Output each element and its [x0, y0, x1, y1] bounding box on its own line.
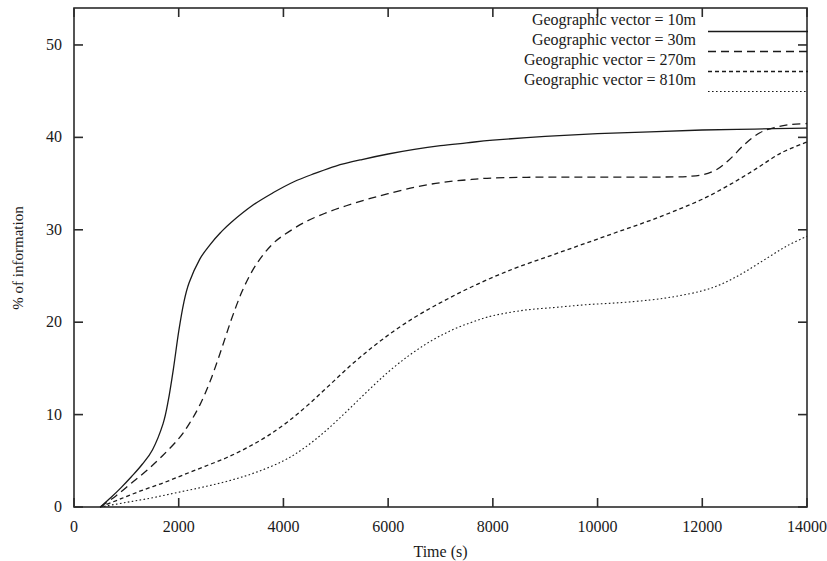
- y-tick-label: 10: [20, 407, 62, 423]
- y-tick-label: 50: [20, 37, 62, 53]
- legend-item: Geographic vector = 10m: [523, 10, 808, 30]
- legend-label: Geographic vector = 270m: [524, 50, 696, 70]
- x-tick-label: 12000: [682, 519, 722, 535]
- legend-line-sample: [708, 79, 808, 81]
- series-lines: [100, 124, 807, 507]
- series-line-0: [100, 128, 807, 507]
- legend-line-sample: [708, 59, 808, 61]
- x-tick-label: 8000: [477, 519, 509, 535]
- x-tick-label: 2000: [163, 519, 195, 535]
- x-tick-label: 10000: [578, 519, 618, 535]
- legend-label: Geographic vector = 10m: [532, 10, 696, 30]
- x-tick-label: 4000: [267, 519, 299, 535]
- x-tick-label: 0: [70, 519, 78, 535]
- legend: Geographic vector = 10mGeographic vector…: [523, 10, 808, 96]
- y-tick-label: 0: [20, 499, 62, 515]
- x-tick-label: 14000: [787, 519, 827, 535]
- series-line-1: [100, 124, 807, 507]
- x-axis-title: Time (s): [413, 543, 467, 561]
- legend-label: Geographic vector = 30m: [532, 30, 696, 50]
- legend-item: Geographic vector = 270m: [523, 50, 808, 70]
- legend-line-sample: [708, 39, 808, 41]
- series-line-2: [100, 142, 807, 507]
- legend-line-sample: [708, 19, 808, 21]
- y-axis-title: % of information: [10, 206, 27, 309]
- legend-label: Geographic vector = 810m: [524, 70, 696, 90]
- x-tick-label: 6000: [372, 519, 404, 535]
- legend-item: Geographic vector = 30m: [523, 30, 808, 50]
- y-tick-label: 20: [20, 314, 62, 330]
- y-tick-label: 40: [20, 129, 62, 145]
- legend-item: Geographic vector = 810m: [523, 70, 808, 90]
